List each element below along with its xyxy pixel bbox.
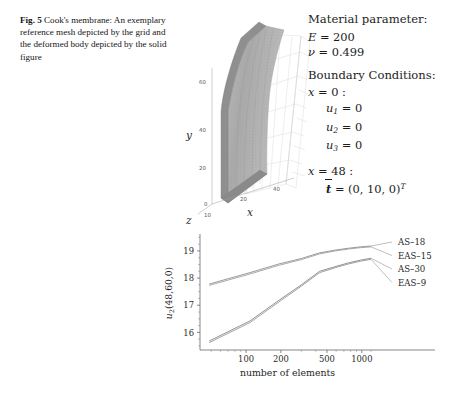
traction-value: = (0, 10, 0) xyxy=(335,182,401,196)
axis-label-y: y xyxy=(185,129,193,141)
legend-leader-2 xyxy=(371,258,392,269)
y-axis-title-group: u2(48,60,0) xyxy=(163,267,176,319)
u1-value: = 0 xyxy=(342,101,362,115)
legend-label-AS-30[interactable]: AS–30 xyxy=(397,264,425,274)
y-tick-label-16: 16 xyxy=(183,328,194,338)
material-and-boundary-column: Material parameter: E = 200 ν = 0.499 Bo… xyxy=(308,12,460,198)
nu-symbol: ν xyxy=(308,45,315,59)
y-tick-0: 0 xyxy=(204,201,208,207)
figure-5-caption: Fig. 5 Cook's membrane: An exemplary ref… xyxy=(20,14,170,63)
boundary-case-2: x = 48 : xyxy=(308,164,460,180)
spacer-2 xyxy=(308,157,460,164)
case1-value: = 0 : xyxy=(318,85,346,99)
y-tick-label-18: 18 xyxy=(183,273,194,283)
y-axis-title-rest: (48,60,0) xyxy=(163,267,174,309)
figure-5-caption-text: Cook's membrane: An exemplary reference … xyxy=(20,15,166,62)
axis-label-z: z xyxy=(185,214,192,226)
legend-leader-0 xyxy=(371,242,392,246)
boundary-u1: u1 = 0 xyxy=(308,101,460,120)
material-parameter-heading: Material parameter: xyxy=(308,12,460,28)
figure-5-caption-label: Fig. 5 xyxy=(20,15,42,25)
x-tick-label-200: 200 xyxy=(273,354,289,364)
series-line-EAS-9 xyxy=(209,259,371,342)
material-nu-line: ν = 0.499 xyxy=(308,45,460,61)
E-symbol: E xyxy=(308,30,316,44)
u3-subscript: 3 xyxy=(333,144,338,153)
x-tick-label-100: 100 xyxy=(238,354,254,364)
legend-label-AS-18[interactable]: AS–18 xyxy=(397,237,425,247)
legend-label-EAS-15[interactable]: EAS–15 xyxy=(398,251,432,261)
case2-value: = 48 : xyxy=(318,164,353,178)
traction-letter: t xyxy=(326,182,331,196)
E-value: = 200 xyxy=(320,30,355,44)
nu-value: = 0.499 xyxy=(319,45,365,59)
boundary-conditions-heading: Boundary Conditions: xyxy=(308,68,460,84)
u3-value: = 0 xyxy=(342,138,362,152)
convergence-chart: 161718191002005001000AS–18EAS–15AS–30EAS… xyxy=(160,228,464,405)
figure-6-block: Fig. 6 Cook's membrane, Small Deformatio… xyxy=(0,228,464,405)
z-tick-10: 10 xyxy=(204,212,211,218)
traction-transpose: T xyxy=(400,182,405,191)
u2-value: = 0 xyxy=(342,120,362,134)
document-page: Fig. 5 Cook's membrane: An exemplary ref… xyxy=(0,0,464,405)
boundary-case-1: x = 0 : xyxy=(308,85,460,101)
y-tick-60: 60 xyxy=(199,79,206,85)
series-line-AS-30 xyxy=(209,258,371,341)
boundary-u3: u3 = 0 xyxy=(308,138,460,157)
x-axis-title: number of elements xyxy=(240,367,335,378)
axis-label-x: x xyxy=(247,206,253,218)
u2-subscript: 2 xyxy=(333,126,338,135)
y-tick-label-19: 19 xyxy=(183,246,194,256)
convergence-chart-svg: 161718191002005001000AS–18EAS–15AS–30EAS… xyxy=(160,228,464,405)
chart-root: 161718191002005001000AS–18EAS–15AS–30EAS… xyxy=(163,234,435,378)
cooks-membrane-3d-figure: 60 40 20 0 20 40 10 y x z xyxy=(168,8,318,226)
series-line-EAS-15 xyxy=(209,247,371,286)
boundary-traction: t = (0, 10, 0)T xyxy=(308,179,460,198)
y-tick-label-17: 17 xyxy=(183,300,194,310)
y-axis-title: u2(48,60,0) xyxy=(163,267,176,319)
y-tick-40: 40 xyxy=(199,127,206,133)
x-tick-40: 40 xyxy=(273,186,280,192)
x-tick-label-500: 500 xyxy=(319,354,335,364)
y-tick-20: 20 xyxy=(199,165,206,171)
u1-subscript: 1 xyxy=(333,107,338,116)
cooks-membrane-svg: 60 40 20 0 20 40 10 y x z xyxy=(168,8,318,226)
legend-leader-3 xyxy=(371,259,392,282)
case2-symbol: x xyxy=(308,164,314,178)
material-E-line: E = 200 xyxy=(308,30,460,46)
traction-symbol: t xyxy=(326,182,331,198)
deformed-body xyxy=(221,22,284,203)
spacer-1 xyxy=(308,61,460,68)
case1-symbol: x xyxy=(308,85,314,99)
legend-label-EAS-9[interactable]: EAS–9 xyxy=(398,278,426,288)
traction-overbar xyxy=(325,179,332,180)
boundary-u2: u2 = 0 xyxy=(308,120,460,139)
legend-leader-1 xyxy=(371,247,392,256)
x-tick-20: 20 xyxy=(240,196,247,202)
figure-5-block: Fig. 5 Cook's membrane: An exemplary ref… xyxy=(0,0,464,228)
x-tick-label-1000: 1000 xyxy=(351,354,372,364)
